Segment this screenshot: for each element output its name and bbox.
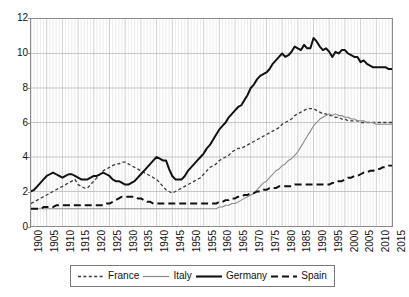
- x-tick-label: 1905: [50, 230, 60, 252]
- x-tick-label: 1985: [302, 230, 312, 252]
- x-tick-label: 1935: [144, 230, 154, 252]
- legend-item-germany[interactable]: Germany: [196, 271, 267, 281]
- chart-figure: 024681012 190019051910191519201925193019…: [0, 0, 409, 297]
- chart-legend: France Italy Germany Spain: [70, 265, 335, 287]
- legend-item-france[interactable]: France: [78, 271, 139, 281]
- x-tick-label: 1980: [287, 230, 297, 252]
- x-tick-label: 1920: [97, 230, 107, 252]
- x-tick-label: 1945: [176, 230, 186, 252]
- x-axis: 1900190519101915192019251930193519401945…: [30, 228, 393, 268]
- series-line-spain: [31, 166, 392, 209]
- x-tick-label: 1910: [66, 230, 76, 252]
- x-tick-label: 1955: [208, 230, 218, 252]
- series-lines: [31, 19, 392, 226]
- y-tick-label: 2: [2, 187, 28, 197]
- x-tick-label: 2000: [350, 230, 360, 252]
- legend-swatch-france: [78, 272, 104, 281]
- legend-item-spain[interactable]: Spain: [271, 271, 327, 281]
- x-tick-label: 1995: [334, 230, 344, 252]
- y-tick-label: 4: [2, 152, 28, 162]
- legend-label-spain: Spain: [301, 271, 327, 281]
- x-tick-label: 2005: [365, 230, 375, 252]
- legend-swatch-italy: [143, 272, 169, 281]
- legend-label-france: France: [108, 271, 139, 281]
- x-tick-label: 2010: [381, 230, 391, 252]
- legend-swatch-germany: [196, 272, 222, 281]
- x-tick-label: 1915: [81, 230, 91, 252]
- y-tick-label: 0: [2, 222, 28, 232]
- legend-label-germany: Germany: [226, 271, 267, 281]
- x-tick-label: 1900: [34, 230, 44, 252]
- y-tick-label: 12: [2, 13, 28, 23]
- x-tick-label: 1930: [129, 230, 139, 252]
- y-axis: 024681012: [0, 0, 28, 245]
- legend-swatch-spain: [271, 272, 297, 281]
- x-tick-label: 1940: [160, 230, 170, 252]
- y-tick-label: 8: [2, 83, 28, 93]
- x-tick-label: 1950: [192, 230, 202, 252]
- x-tick-label: 1925: [113, 230, 123, 252]
- x-tick-label: 2015: [397, 230, 407, 252]
- legend-item-italy[interactable]: Italy: [143, 271, 191, 281]
- x-tick-label: 1965: [239, 230, 249, 252]
- x-tick-label: 1960: [223, 230, 233, 252]
- plot-area: [30, 18, 393, 227]
- x-tick-label: 1990: [318, 230, 328, 252]
- series-line-italy: [31, 114, 392, 209]
- legend-label-italy: Italy: [173, 271, 191, 281]
- series-line-france: [31, 109, 392, 204]
- y-tick-label: 10: [2, 48, 28, 58]
- y-tick-label: 6: [2, 118, 28, 128]
- x-tick-label: 1970: [255, 230, 265, 252]
- x-tick-label: 1975: [271, 230, 281, 252]
